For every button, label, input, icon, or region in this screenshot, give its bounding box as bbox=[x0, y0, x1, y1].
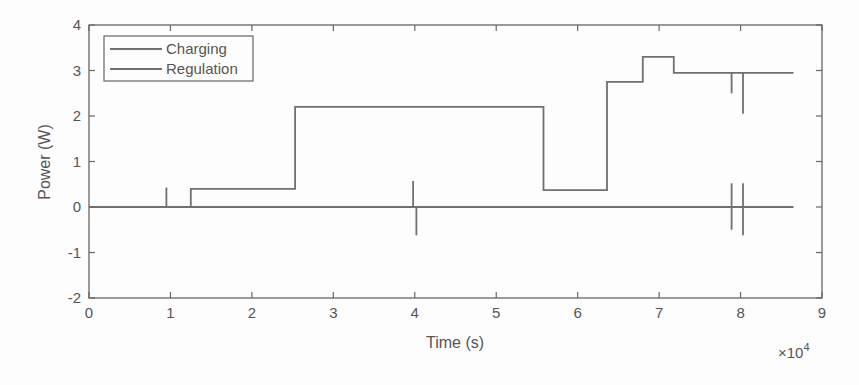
y-tick-label: 3 bbox=[73, 62, 81, 79]
chart: 0123456789-2-101234 ChargingRegulation P… bbox=[0, 0, 859, 385]
plot-area bbox=[89, 57, 794, 235]
legend: ChargingRegulation bbox=[104, 36, 253, 81]
x-tick-label: 2 bbox=[248, 304, 256, 321]
legend-label: Charging bbox=[166, 40, 227, 57]
y-tick-label: 2 bbox=[73, 107, 81, 124]
x-tick-label: 3 bbox=[329, 304, 337, 321]
legend-label: Regulation bbox=[166, 60, 238, 77]
x-tick-label: 7 bbox=[655, 304, 663, 321]
x-tick-label: 8 bbox=[736, 304, 744, 321]
y-axis-label: Power (W) bbox=[36, 124, 53, 200]
x-tick-label: 1 bbox=[166, 304, 174, 321]
y-tick-label: 0 bbox=[73, 198, 81, 215]
x-tick-label: 0 bbox=[85, 304, 93, 321]
x-axis-label: Time (s) bbox=[426, 334, 484, 351]
y-tick-label: -2 bbox=[68, 289, 81, 306]
x-tick-label: 4 bbox=[411, 304, 419, 321]
y-tick-label: 4 bbox=[73, 16, 81, 33]
y-tick-label: 1 bbox=[73, 153, 81, 170]
x-tick-label: 6 bbox=[573, 304, 581, 321]
x-tick-label: 9 bbox=[818, 304, 826, 321]
y-tick-label: -1 bbox=[68, 244, 81, 261]
x-tick-label: 5 bbox=[492, 304, 500, 321]
x-multiplier: ×104 bbox=[778, 341, 810, 361]
